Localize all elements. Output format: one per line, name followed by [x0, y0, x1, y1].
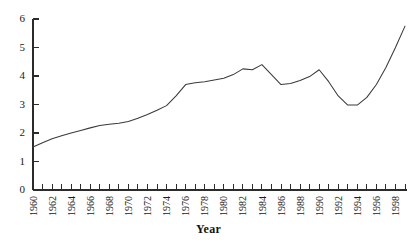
x-axis-tick-label: 1962	[47, 196, 58, 216]
x-axis-tick-label: 1986	[276, 196, 287, 216]
y-axis-tick-label: 3	[20, 98, 26, 110]
chart-plot-area: 0123456 19601962196419661968197019721974…	[0, 0, 417, 245]
x-axis-tick-label: 1970	[123, 196, 134, 216]
data-line-1	[33, 26, 405, 147]
x-axis-tick-label: 1988	[295, 196, 306, 216]
y-axis-tick-label: 2	[20, 126, 26, 138]
x-axis-title: Year	[0, 222, 417, 237]
x-axis-tick-label: 1982	[237, 196, 248, 216]
x-axis-tick-label: 1990	[314, 196, 325, 216]
y-axis-tick-label: 1	[20, 155, 26, 167]
x-axis-tick-label: 1998	[390, 196, 401, 216]
x-axis-tick-label: 1996	[371, 196, 382, 216]
x-axis-tick-label: 1976	[180, 196, 191, 216]
x-axis-tick-label: 1978	[199, 196, 210, 216]
x-axis-tick-label: 1984	[257, 196, 268, 216]
x-axis-tick-label: 1992	[333, 196, 344, 216]
x-axis: 1960196219641966196819701972197419761978…	[28, 184, 407, 216]
x-axis-tick-label: 1964	[66, 196, 77, 216]
y-axis: 0123456	[20, 12, 40, 195]
x-axis-tick-label: 1968	[104, 196, 115, 216]
y-axis-tick-label: 6	[20, 12, 26, 24]
x-axis-tick-label: 1966	[85, 196, 96, 216]
x-axis-tick-label: 1980	[218, 196, 229, 216]
x-axis-tick-label: 1994	[352, 196, 363, 216]
x-axis-tick-label: 1960	[28, 196, 39, 216]
line-chart: 0123456 19601962196419661968197019721974…	[0, 0, 417, 245]
y-axis-tick-label: 0	[20, 183, 26, 195]
y-axis-tick-label: 5	[20, 41, 26, 53]
x-axis-tick-label: 1974	[161, 196, 172, 216]
x-axis-tick-label: 1972	[142, 196, 153, 216]
data-series-group	[33, 26, 405, 147]
y-axis-tick-label: 4	[20, 69, 26, 81]
